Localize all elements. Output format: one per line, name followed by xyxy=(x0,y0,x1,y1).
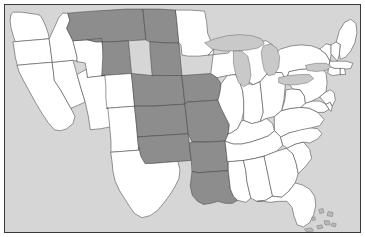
state-sd[interactable]: South Dakota xyxy=(150,42,182,76)
state-ar[interactable]: Arkansas xyxy=(189,141,228,173)
state-ok[interactable]: Oklahoma xyxy=(138,134,192,164)
state-ks[interactable]: Kansas xyxy=(135,104,189,137)
us-map-svg[interactable]: WashingtonOregonCaliforniaNevadaIdahoUta… xyxy=(5,5,360,232)
us-choropleth-map-figure: WashingtonOregonCaliforniaNevadaIdahoUta… xyxy=(0,0,365,237)
florida-keys-b-islet xyxy=(317,225,323,229)
bahamas-c-islet xyxy=(324,221,330,225)
lake-lake-ontario: Lake Ontario xyxy=(305,63,331,71)
state-ne[interactable]: Nebraska xyxy=(132,74,186,107)
state-me[interactable]: Maine xyxy=(336,19,357,59)
map-frame-border: WashingtonOregonCaliforniaNevadaIdahoUta… xyxy=(4,4,361,233)
bahamas-d-islet xyxy=(331,223,336,227)
state-mt[interactable]: Montana xyxy=(67,9,146,42)
state-co[interactable]: Colorado xyxy=(102,74,135,109)
state-nh[interactable]: New Hampshire xyxy=(331,42,340,61)
state-wa[interactable]: Washington xyxy=(10,12,49,42)
state-nd[interactable]: North Dakota xyxy=(143,9,179,43)
state-ut[interactable]: Utah xyxy=(73,39,106,78)
bahamas-a-islet xyxy=(319,208,324,213)
state-ia[interactable]: Iowa xyxy=(182,74,221,105)
florida-keys-a-islet xyxy=(304,228,313,232)
state-ri[interactable]: Rhode Island xyxy=(340,68,345,74)
state-mn[interactable]: Minnesota xyxy=(176,10,214,56)
bahamas-e-islet xyxy=(312,217,316,221)
state-or[interactable]: Oregon xyxy=(13,39,52,66)
states-layer: WashingtonOregonCaliforniaNevadaIdahoUta… xyxy=(10,9,357,227)
bahamas-b-islet xyxy=(327,212,333,217)
lake-lake-superior: Lake Superior xyxy=(205,35,265,51)
state-nm[interactable]: New Mexico xyxy=(107,106,139,152)
